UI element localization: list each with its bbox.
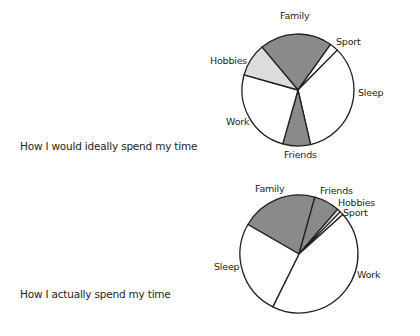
label-actual-friends: Friends	[320, 185, 353, 196]
label-ideal-sport: Sport	[336, 36, 361, 47]
label-actual-sport: Sport	[343, 207, 368, 218]
pie-actual	[240, 195, 358, 313]
label-ideal-sleep: Sleep	[358, 87, 383, 98]
caption-actual: How I actually spend my time	[20, 288, 171, 300]
pie-charts	[0, 0, 420, 336]
label-ideal-work: Work	[226, 116, 249, 127]
label-ideal-family: Family	[280, 10, 309, 21]
caption-ideal: How I would ideally spend my time	[20, 140, 197, 152]
label-ideal-friends: Friends	[284, 149, 317, 160]
label-actual-work: Work	[357, 269, 380, 280]
pie-ideal	[242, 34, 354, 146]
label-ideal-hobbies: Hobbies	[210, 55, 247, 66]
label-actual-family: Family	[255, 183, 284, 194]
label-actual-sleep: Sleep	[214, 261, 239, 272]
